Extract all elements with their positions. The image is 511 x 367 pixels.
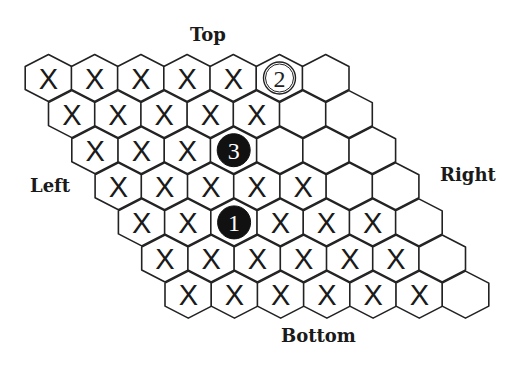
stone-3: 3 xyxy=(217,134,250,167)
stone-1: 1 xyxy=(218,206,251,239)
x-mark-icon: X xyxy=(108,99,127,131)
x-mark-icon: X xyxy=(201,171,220,203)
x-mark-icon: X xyxy=(109,171,128,203)
x-mark-icon: X xyxy=(132,207,151,239)
x-mark-icon: X xyxy=(247,171,266,203)
stone-number: 2 xyxy=(274,66,286,92)
x-mark-icon: X xyxy=(317,207,336,239)
x-mark-icon: X xyxy=(178,207,197,239)
stone-number: 3 xyxy=(228,138,240,164)
x-mark-icon: X xyxy=(155,243,174,275)
x-mark-icon: X xyxy=(247,99,266,131)
stone-2: 2 xyxy=(264,62,296,94)
stone-number: 1 xyxy=(228,210,240,236)
x-mark-icon: X xyxy=(224,63,243,95)
x-mark-icon: X xyxy=(248,243,267,275)
edge-label-left: Left xyxy=(30,177,70,195)
x-mark-icon: X xyxy=(225,279,244,311)
edge-label-right: Right xyxy=(440,166,496,184)
x-mark-icon: X xyxy=(294,243,313,275)
x-mark-icon: X xyxy=(131,63,150,95)
x-mark-icon: X xyxy=(201,99,220,131)
x-mark-icon: X xyxy=(155,171,174,203)
x-mark-icon: X xyxy=(39,63,58,95)
x-mark-icon: X xyxy=(363,207,382,239)
x-mark-icon: X xyxy=(317,279,336,311)
x-mark-icon: X xyxy=(340,243,359,275)
x-mark-icon: X xyxy=(294,171,313,203)
x-mark-icon: X xyxy=(202,243,221,275)
x-mark-icon: X xyxy=(271,279,290,311)
edge-label-top: Top xyxy=(190,26,226,44)
edge-label-bottom: Bottom xyxy=(281,327,356,345)
x-mark-icon: X xyxy=(62,99,81,131)
x-mark-icon: X xyxy=(363,279,382,311)
x-mark-icon: X xyxy=(178,135,197,167)
x-mark-icon: X xyxy=(410,279,429,311)
x-mark-icon: X xyxy=(386,243,405,275)
x-mark-icon: X xyxy=(179,279,198,311)
x-mark-icon: X xyxy=(155,99,174,131)
x-mark-icon: X xyxy=(85,63,104,95)
x-mark-icon: X xyxy=(177,63,196,95)
x-mark-icon: X xyxy=(85,135,104,167)
hex-board: XXXXX2XXXXXXXX3XXXXXXX1XXXXXXXXXXXXXXX xyxy=(0,0,511,367)
x-mark-icon: X xyxy=(132,135,151,167)
x-mark-icon: X xyxy=(271,207,290,239)
